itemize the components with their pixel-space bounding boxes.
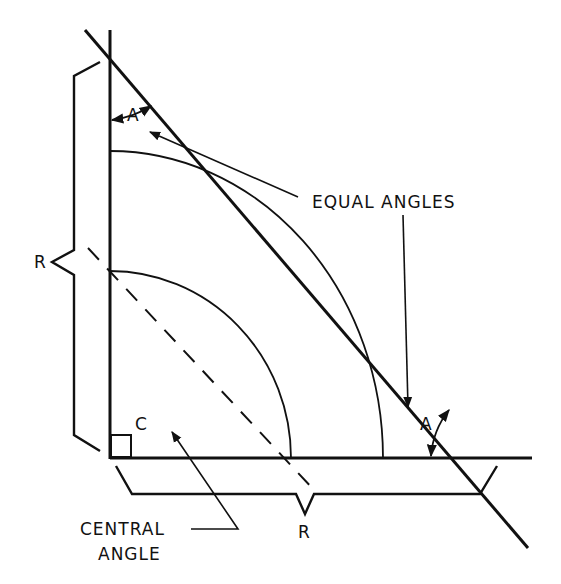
- angle-label-bottom: A: [420, 414, 433, 434]
- radius-label-horizontal: R: [298, 522, 311, 542]
- horizontal-radius-brace: [116, 466, 497, 514]
- vertical-radius-brace: [52, 62, 100, 451]
- central-angle-label-line1: CENTRAL: [80, 519, 165, 539]
- dashed-bisector-line: [88, 248, 314, 490]
- equal-angles-leader-top: [150, 132, 298, 197]
- angle-label-top: A: [127, 105, 140, 125]
- tangent-arc-diagram: A A EQUAL ANGLES R R C CENTRAL ANGLE: [0, 0, 561, 584]
- radius-label-vertical: R: [34, 252, 47, 272]
- right-angle-marker: [111, 435, 131, 457]
- central-corner-label: C: [135, 414, 148, 434]
- central-angle-label-line2: ANGLE: [98, 544, 161, 564]
- bottom-angle-arc: [431, 410, 449, 456]
- equal-angles-label: EQUAL ANGLES: [312, 192, 456, 212]
- tangent-line: [85, 30, 528, 548]
- central-angle-leader: [172, 432, 238, 529]
- equal-angles-leader-bottom: [403, 215, 408, 407]
